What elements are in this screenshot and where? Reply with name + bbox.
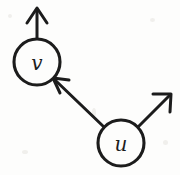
node-u-label: u: [115, 132, 128, 156]
node-v[interactable]: v: [14, 39, 60, 85]
graph-svg: v u: [0, 0, 180, 175]
node-v-label: v: [31, 51, 43, 75]
diagram-canvas: v u: [0, 0, 180, 175]
arrow-u-upright: [138, 94, 171, 127]
edge-u-to-v: [53, 78, 104, 127]
edge-u-to-v-shaft: [55, 80, 104, 127]
arrow-v-up: [27, 8, 47, 39]
arrow-u-upright-shaft: [138, 96, 169, 127]
node-u[interactable]: u: [98, 120, 144, 166]
